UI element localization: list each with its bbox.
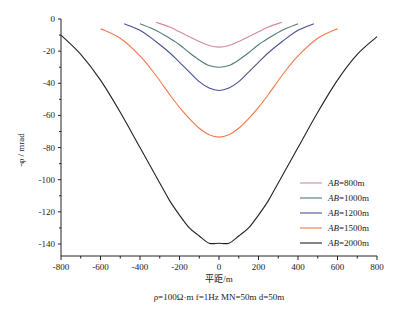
series-line-ab1200m: [124, 24, 314, 91]
y-tick-label: -20: [43, 46, 55, 56]
legend: AB=800mAB=1000mAB=1200mAB=1500mAB=2000m: [300, 178, 369, 248]
x-tick-label: 600: [331, 262, 345, 272]
y-tick-label: 0: [51, 14, 56, 24]
legend-label: AB=1200m: [327, 208, 369, 218]
x-tick-label: -800: [53, 262, 70, 272]
legend-label: AB=2000m: [327, 238, 369, 248]
y-axis-title: -φ / mrad: [16, 133, 26, 167]
x-tick-label: 400: [291, 262, 305, 272]
legend-label: AB=1000m: [327, 193, 369, 203]
series-line-ab800m: [156, 22, 282, 47]
x-tick-label: -600: [92, 262, 109, 272]
axes: 0-20-40-60-80-100-120-140-800-600-400-20…: [39, 14, 385, 272]
chart: 0-20-40-60-80-100-120-140-800-600-400-20…: [0, 0, 396, 319]
chart-caption: ρ=100Ω·m f=1Hz MN=50m d=50m: [154, 292, 285, 302]
x-tick-label: 200: [252, 262, 266, 272]
x-tick-label: 800: [370, 262, 384, 272]
x-tick-label: 0: [217, 262, 222, 272]
series-line-ab1000m: [140, 24, 298, 67]
y-tick-label: -120: [39, 207, 56, 217]
y-tick-label: -60: [43, 110, 55, 120]
legend-label: AB=1500m: [327, 223, 369, 233]
legend-label: AB=800m: [327, 178, 365, 188]
series-line-ab1500m: [101, 29, 338, 137]
line-chart-svg: 0-20-40-60-80-100-120-140-800-600-400-20…: [0, 0, 396, 319]
y-tick-label: -40: [43, 78, 55, 88]
y-tick-label: -100: [39, 175, 56, 185]
y-tick-label: -80: [43, 143, 55, 153]
x-tick-label: -200: [171, 262, 188, 272]
x-tick-label: -400: [132, 262, 149, 272]
x-axis-title: 平距/m: [205, 274, 233, 284]
y-tick-label: -140: [39, 239, 56, 249]
